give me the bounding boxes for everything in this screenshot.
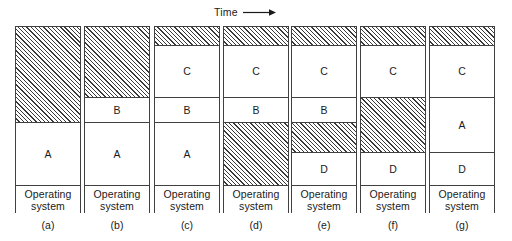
column-caption-f: (f): [360, 219, 426, 231]
block-label: A: [183, 148, 190, 160]
block-label: Operating system: [24, 188, 71, 213]
free-memory-block: [430, 27, 494, 46]
process-block-c: C: [361, 46, 425, 98]
column-caption-e: (e): [291, 219, 357, 231]
operating-system-block: Operating system: [155, 186, 219, 214]
free-memory-block: [85, 27, 149, 98]
memory-column-c: CBAOperating system: [154, 26, 220, 213]
memory-column-e: CBDOperating system: [291, 26, 357, 213]
column-caption-b: (b): [84, 219, 150, 231]
block-label: B: [113, 104, 120, 116]
block-label: C: [183, 65, 191, 77]
memory-column-d: CBOperating system: [223, 26, 289, 213]
operating-system-block: Operating system: [224, 186, 288, 214]
process-block-a: A: [85, 123, 149, 186]
free-memory-block: [224, 27, 288, 46]
block-label: Operating system: [93, 188, 140, 213]
process-block-d: D: [292, 153, 356, 186]
free-memory-block: [292, 27, 356, 46]
free-memory-block: [155, 27, 219, 46]
memory-column-b: BAOperating system: [84, 26, 150, 213]
free-memory-block: [224, 123, 288, 186]
block-label: Operating system: [438, 188, 485, 213]
block-label: C: [252, 65, 260, 77]
process-block-d: D: [430, 153, 494, 186]
block-label: Operating system: [163, 188, 210, 213]
process-block-c: C: [155, 46, 219, 98]
process-block-b: B: [155, 98, 219, 123]
block-label: D: [320, 163, 328, 175]
free-memory-block: [292, 123, 356, 153]
time-axis-label: Time: [214, 7, 238, 18]
time-axis: Time: [214, 3, 277, 21]
column-caption-a: (a): [15, 219, 81, 231]
block-label: A: [458, 119, 465, 131]
operating-system-block: Operating system: [16, 186, 80, 214]
operating-system-block: Operating system: [292, 186, 356, 214]
block-label: A: [113, 148, 120, 160]
block-label: Operating system: [300, 188, 347, 213]
free-memory-block: [361, 27, 425, 46]
block-label: C: [320, 65, 328, 77]
memory-column-a: AOperating system: [15, 26, 81, 213]
free-memory-block: [16, 27, 80, 123]
column-caption-g: (g): [429, 219, 495, 231]
memory-column-f: CDOperating system: [360, 26, 426, 213]
operating-system-block: Operating system: [85, 186, 149, 214]
process-block-a: A: [16, 123, 80, 186]
block-label: D: [458, 163, 466, 175]
block-label: B: [252, 104, 259, 116]
free-memory-block: [361, 98, 425, 153]
process-block-d: D: [361, 153, 425, 186]
block-label: C: [389, 65, 397, 77]
block-label: C: [458, 65, 466, 77]
process-block-c: C: [224, 46, 288, 98]
process-block-a: A: [155, 123, 219, 186]
process-block-c: C: [430, 46, 494, 98]
process-block-a: A: [430, 98, 494, 153]
column-caption-d: (d): [223, 219, 289, 231]
process-block-b: B: [224, 98, 288, 123]
block-label: Operating system: [232, 188, 279, 213]
block-label: A: [44, 148, 51, 160]
process-block-c: C: [292, 46, 356, 98]
process-block-b: B: [85, 98, 149, 123]
operating-system-block: Operating system: [361, 186, 425, 214]
block-label: Operating system: [369, 188, 416, 213]
memory-allocation-figure: Time AOperating system(a)BAOperating sys…: [0, 0, 512, 241]
operating-system-block: Operating system: [430, 186, 494, 214]
memory-column-g: CADOperating system: [429, 26, 495, 213]
block-label: B: [183, 104, 190, 116]
block-label: B: [320, 104, 327, 116]
block-label: D: [389, 163, 397, 175]
column-caption-c: (c): [154, 219, 220, 231]
process-block-b: B: [292, 98, 356, 123]
right-arrow-icon: [243, 8, 277, 17]
